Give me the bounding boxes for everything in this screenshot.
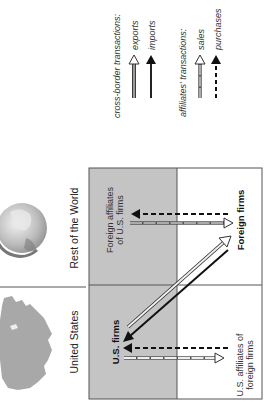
legend-imports-arrow-icon <box>146 55 156 98</box>
region-label-united-states: United States <box>68 310 80 373</box>
node-us-affiliates-line2: foreign firms <box>245 340 255 390</box>
region-label-rest-of-world: Rest of the World <box>68 187 80 268</box>
legend-exports-arrow-icon <box>129 55 139 98</box>
node-us-affiliates-line1: U.S. affiliates of <box>235 333 245 396</box>
node-foreign-firms: Foreign firms <box>235 190 246 251</box>
legend-exports-label: exports <box>130 20 140 50</box>
globe-icon <box>0 203 47 256</box>
legend-sales-arrow-icon <box>195 55 205 98</box>
legend-title-cross-border: cross-border transactions: <box>112 13 122 118</box>
trade-diagram: cross-border transactions: exports impor… <box>0 0 265 402</box>
legend-sales-label: sales <box>196 28 206 50</box>
panel-shaded <box>89 168 177 399</box>
region-labels: Rest of the World United States <box>0 187 86 390</box>
node-foreign-affiliates-line1: Foreign affiliates <box>105 187 115 253</box>
legend: cross-border transactions: exports impor… <box>112 8 223 118</box>
legend-purchases-arrow-icon <box>211 55 221 98</box>
legend-title-affiliates: affiliates' transactions: <box>178 28 188 117</box>
node-us-firms: U.S. firms <box>110 320 121 364</box>
legend-imports-label: imports <box>147 20 157 50</box>
node-foreign-affiliates-line2: of U.S. firms <box>115 195 125 245</box>
us-map-icon <box>0 296 52 390</box>
legend-purchases-label: purchases <box>213 8 223 51</box>
